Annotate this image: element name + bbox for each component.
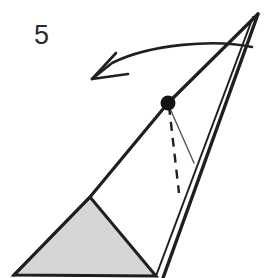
thin-segment — [168, 104, 194, 163]
figure-container: Figure 5 — rotating triangle diagram 5 — [0, 0, 272, 278]
geometry-figure: Figure 5 — rotating triangle diagram 5 — [0, 0, 272, 278]
outline-triangle-inner-edge — [156, 17, 253, 276]
shaded-triangle — [14, 197, 156, 276]
figure-number-label: 5 — [34, 20, 49, 50]
pivot-point-dot — [161, 96, 176, 111]
rotation-arrow-curve — [92, 43, 252, 79]
outline-triangle-right-leg — [163, 14, 258, 278]
